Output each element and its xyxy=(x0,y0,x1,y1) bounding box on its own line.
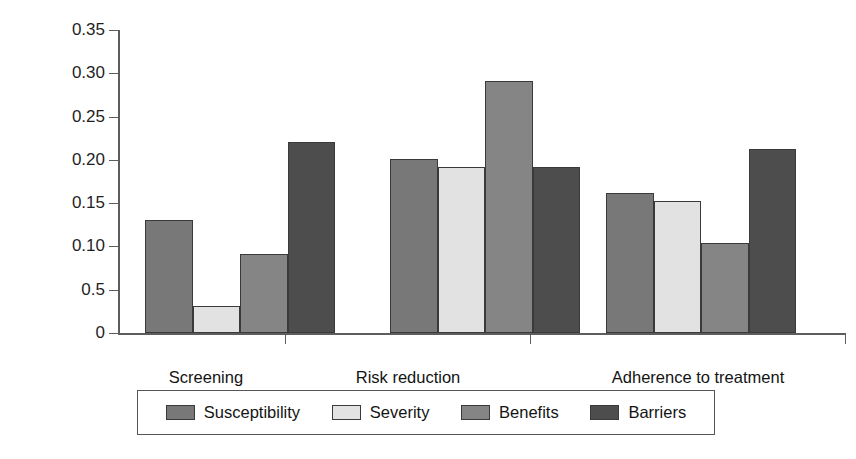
y-axis-tick: 0 xyxy=(109,333,118,334)
x-axis-divider-tick xyxy=(285,334,286,344)
legend-entry: Barriers xyxy=(590,403,686,422)
y-axis-tick: 0.10 xyxy=(109,246,118,247)
legend-swatch-icon xyxy=(590,405,619,420)
y-axis-tick-label: 0.30 xyxy=(72,63,105,83)
x-axis-divider-tick xyxy=(845,334,846,344)
bar xyxy=(749,149,797,333)
bar xyxy=(193,306,241,333)
y-axis-tick: 0.30 xyxy=(109,73,118,74)
legend-label: Severity xyxy=(370,403,430,422)
bar-chart-figure: Effect size (r) 0.350.300.250.200.150.10… xyxy=(0,0,856,459)
plot-area: 0.350.300.250.200.150.100.50 ScreeningRi… xyxy=(118,24,846,335)
legend-label: Susceptibility xyxy=(204,403,300,422)
bar xyxy=(533,167,581,333)
y-axis-tick-label: 0.35 xyxy=(72,20,105,40)
y-axis-tick-label: 0.25 xyxy=(72,107,105,127)
y-axis-tick: 0.20 xyxy=(109,160,118,161)
y-axis-tick: 0.5 xyxy=(109,290,118,291)
x-axis-group-label: Risk reduction xyxy=(356,368,461,387)
bar xyxy=(701,243,749,333)
bar xyxy=(288,142,336,333)
legend-entry: Susceptibility xyxy=(166,403,300,422)
y-axis-tick-label: 0.15 xyxy=(72,193,105,213)
chart-legend: SusceptibilitySeverityBenefitsBarriers xyxy=(137,390,715,435)
legend-label: Benefits xyxy=(499,403,559,422)
x-axis-group-label: Screening xyxy=(169,368,243,387)
x-axis-line xyxy=(118,333,846,335)
bar xyxy=(654,201,702,333)
y-axis-tick-label: 0.20 xyxy=(72,150,105,170)
y-axis-tick: 0.15 xyxy=(109,203,118,204)
legend-entry: Severity xyxy=(332,403,430,422)
x-axis-group-label: Adherence to treatment xyxy=(612,368,784,387)
y-axis-tick-label: 0.5 xyxy=(81,280,105,300)
y-axis-tick: 0.25 xyxy=(109,117,118,118)
x-axis-divider-tick xyxy=(530,334,531,344)
legend-swatch-icon xyxy=(461,405,490,420)
y-axis-tick: 0.35 xyxy=(109,30,118,31)
bar xyxy=(606,193,654,333)
y-axis-tick-label: 0.10 xyxy=(72,236,105,256)
bar xyxy=(438,167,486,333)
bar xyxy=(485,81,533,333)
y-axis-tick-label: 0 xyxy=(96,323,105,343)
bar xyxy=(240,254,288,333)
legend-entry: Benefits xyxy=(461,403,559,422)
bar xyxy=(390,159,438,333)
legend-swatch-icon xyxy=(166,405,195,420)
legend-label: Barriers xyxy=(628,403,686,422)
bar xyxy=(145,220,193,333)
legend-swatch-icon xyxy=(332,405,361,420)
y-axis-line xyxy=(118,30,120,334)
